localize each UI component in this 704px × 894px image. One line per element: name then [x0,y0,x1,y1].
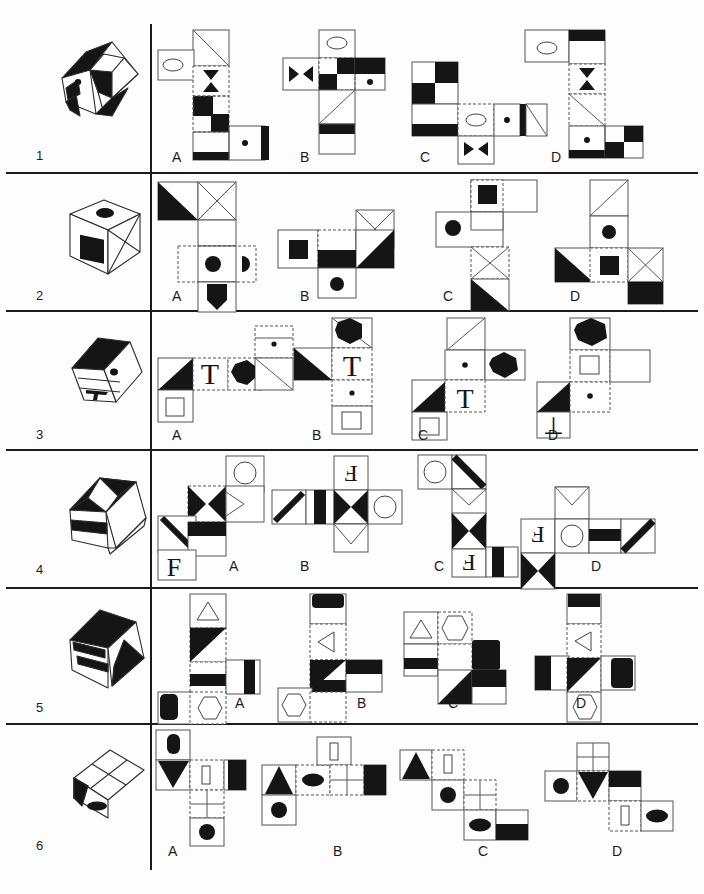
net-2a[interactable] [158,182,278,302]
net-5b[interactable] [278,594,403,709]
net-6c[interactable] [400,750,535,855]
svg-text:T: T [343,349,361,382]
net-1a[interactable] [158,30,273,160]
option-label-5d: D [576,695,586,711]
row-number-1: 1 [36,148,43,163]
net-5d[interactable] [535,594,665,714]
option-label-4b: B [300,558,309,574]
option-label-6d: D [612,843,622,859]
svg-text:F: F [531,522,544,548]
net-5c[interactable] [404,612,539,712]
row-number-2: 2 [36,288,43,303]
svg-text:F: F [462,550,475,576]
row-number-3: 3 [36,427,43,442]
row-number-5: 5 [36,700,43,715]
net-6a[interactable] [156,730,266,845]
option-label-2c: C [443,288,453,304]
option-label-1c: C [420,149,430,165]
svg-text:F: F [167,553,181,582]
column-divider [150,24,152,870]
option-label-3b: B [312,427,321,443]
row-divider-5 [6,723,698,725]
option-label-6b: B [333,843,342,859]
option-label-2a: A [172,288,181,304]
net-3a[interactable]: T [158,326,298,436]
option-label-1a: A [172,149,181,165]
option-label-5c: C [448,695,458,711]
cube-5 [56,600,152,696]
cube-6 [52,740,150,830]
row-number-4: 4 [36,562,43,577]
option-label-4c: C [434,558,444,574]
option-label-4d: D [591,558,601,574]
option-label-3c: C [418,427,428,443]
net-4a[interactable]: F [158,456,283,571]
net-5a[interactable] [158,594,283,709]
option-label-3d: D [548,427,558,443]
option-label-2d: D [570,288,580,304]
net-3d[interactable]: ⊥ [537,318,662,438]
option-label-6c: C [478,843,488,859]
option-label-5b: B [357,695,366,711]
net-1d[interactable] [525,30,655,160]
net-4c[interactable]: F [418,455,523,575]
net-3b[interactable]: T [294,318,374,438]
option-label-6a: A [168,843,177,859]
net-6d[interactable] [545,743,680,848]
option-label-5a: A [235,695,244,711]
cube-3 [58,328,150,420]
row-divider-3 [6,449,698,451]
net-4d[interactable]: F [521,487,656,592]
option-label-4a: A [229,558,238,574]
net-1b[interactable] [283,30,388,160]
cube-1 [52,36,144,128]
svg-text:T: T [201,357,219,390]
cube-2 [58,190,150,282]
net-2b[interactable] [278,210,403,315]
cube-4 [58,466,153,561]
option-label-3a: A [172,427,181,443]
row-divider-1 [6,172,698,174]
option-label-2b: B [300,288,309,304]
net-6b[interactable] [262,737,407,837]
option-label-1d: D [551,149,561,165]
net-3c[interactable]: T [412,318,537,438]
net-4b[interactable]: F [272,456,402,571]
option-label-1b: B [300,149,309,165]
test-sheet: 1 2 3 4 5 6 [0,0,704,894]
svg-text:F: F [344,461,357,487]
svg-text:T: T [456,383,473,414]
row-number-6: 6 [36,838,43,853]
